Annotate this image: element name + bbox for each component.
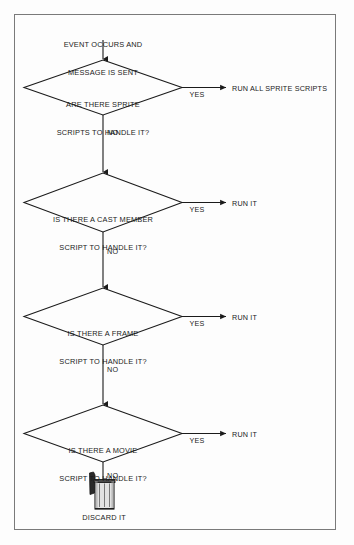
decision-label-movie-line2: SCRIPT TO HANDLE IT? [59, 474, 146, 483]
yes-label-movie: YES [190, 436, 205, 445]
decision-label-cast-member: IS THERE A CAST MEMBER SCRIPT TO HANDLE … [53, 197, 153, 271]
decision-label-movie-line1: IS THERE A MOVIE [59, 446, 146, 455]
decision-label-sprite: ARE THERE SPRITE SCRIPTS TO HANDLE IT? [57, 82, 150, 156]
decision-label-cast-member-line2: SCRIPT TO HANDLE IT? [53, 243, 153, 252]
decision-label-frame: IS THERE A FRAME SCRIPT TO HANDLE IT? [59, 311, 146, 385]
decision-label-sprite-line2: SCRIPTS TO HANDLE IT? [57, 128, 150, 137]
decision-label-frame-line1: IS THERE A FRAME [59, 329, 146, 338]
decision-label-sprite-line1: ARE THERE SPRITE [57, 100, 150, 109]
yes-label-cast-member: YES [190, 205, 205, 214]
yes-label-frame: YES [190, 319, 205, 328]
start-label-line2: MESSAGE IS SENT [64, 68, 143, 77]
outcome-run-it-frame: RUN IT [232, 313, 257, 322]
no-label-sprite: NO [107, 128, 118, 137]
no-label-frame: NO [107, 365, 118, 374]
flowchart-graphics [0, 0, 354, 545]
discard-it-label: DISCARD IT [82, 513, 126, 522]
yes-label-sprite: YES [190, 90, 205, 99]
outcome-run-it-movie: RUN IT [232, 430, 257, 439]
decision-label-movie: IS THERE A MOVIE SCRIPT TO HANDLE IT? [59, 428, 146, 502]
start-label-line1: EVENT OCCURS AND [64, 40, 143, 49]
outcome-run-all-sprite-scripts: RUN ALL SPRITE SCRIPTS [232, 84, 327, 93]
decision-label-frame-line2: SCRIPT TO HANDLE IT? [59, 357, 146, 366]
no-label-cast-member: NO [107, 247, 118, 256]
flowchart-root: EVENT OCCURS AND MESSAGE IS SENT ARE THE… [0, 0, 354, 545]
decision-label-cast-member-line1: IS THERE A CAST MEMBER [53, 215, 153, 224]
no-label-movie: NO [107, 471, 118, 480]
outcome-run-it-cast-member: RUN IT [232, 199, 257, 208]
